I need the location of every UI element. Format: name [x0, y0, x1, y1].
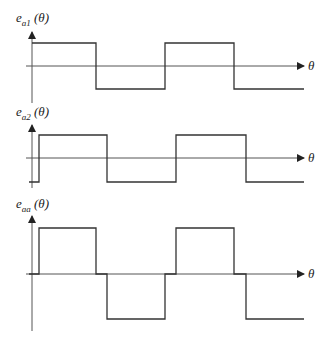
- waveform-panel-2: [26, 125, 304, 188]
- y-axis-label: eaa (θ): [16, 196, 49, 214]
- waveform-panel-1: [26, 32, 304, 103]
- x-axis-label: θ: [308, 266, 314, 282]
- y-axis-label: ea2 (θ): [16, 104, 49, 122]
- y-axis-label: ea1 (θ): [16, 10, 49, 28]
- x-axis-label: θ: [308, 150, 314, 166]
- waveform-panel-3: [26, 216, 304, 331]
- waveform-diagram: [0, 0, 332, 343]
- x-axis-label: θ: [308, 58, 314, 74]
